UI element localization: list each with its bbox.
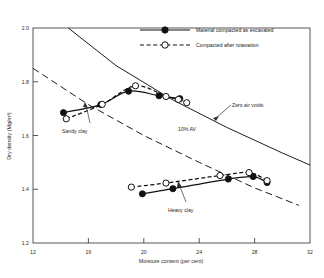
- x-tick-label: 28: [252, 249, 258, 255]
- x-tick-label: 12: [30, 249, 36, 255]
- data-point-filled: [225, 176, 231, 182]
- chart-figure: 121620242832 1.21.41.61.82.0 Zero air vo…: [0, 0, 324, 278]
- y-tick-label: 1.4: [22, 186, 29, 192]
- data-point-open: [163, 93, 169, 99]
- data-point-open: [132, 83, 138, 89]
- legend-label-rotavated: Compacted after rotavation: [196, 42, 259, 48]
- data-point-open: [63, 116, 69, 122]
- data-point-filled: [60, 110, 66, 116]
- dry-density-moisture-chart: 121620242832 1.21.41.61.82.0 Zero air vo…: [0, 0, 324, 278]
- filled-circle-marker-icon: [162, 27, 168, 33]
- y-tick-label: 1.2: [22, 240, 29, 246]
- x-axis-title: Moisture content (per cent): [139, 258, 204, 264]
- annotation-heavy-clay: Heavy clay: [168, 207, 194, 213]
- data-point-open: [175, 96, 181, 102]
- x-tick-label: 32: [307, 249, 313, 255]
- y-tick-label: 2.0: [22, 25, 29, 31]
- x-tick-label: 24: [196, 249, 202, 255]
- data-point-filled: [139, 191, 145, 197]
- data-point-open: [99, 101, 105, 107]
- y-tick-label: 1.6: [22, 133, 29, 139]
- y-axis-title: Dry density (Mg/m³): [6, 112, 12, 160]
- data-point-open: [128, 184, 134, 190]
- legend-label-excavated: Material compacted as excavated: [196, 27, 273, 33]
- chart-background: [0, 0, 324, 278]
- data-point-open: [264, 178, 270, 184]
- annotation-zero-air-voids: Zero air voids: [232, 102, 264, 108]
- x-tick-label: 16: [86, 249, 92, 255]
- open-circle-marker-icon: [162, 42, 168, 48]
- y-tick-label: 1.8: [22, 79, 29, 85]
- data-point-open: [184, 100, 190, 106]
- annotation-ten-percent-av: 10% AV: [178, 126, 197, 132]
- data-point-filled: [156, 93, 162, 99]
- data-point-open: [163, 180, 169, 186]
- data-point-filled: [170, 186, 176, 192]
- annotation-sandy-clay: Sandy clay: [62, 128, 88, 134]
- data-point-open: [217, 172, 223, 178]
- data-point-open: [246, 169, 252, 175]
- x-tick-label: 20: [141, 249, 147, 255]
